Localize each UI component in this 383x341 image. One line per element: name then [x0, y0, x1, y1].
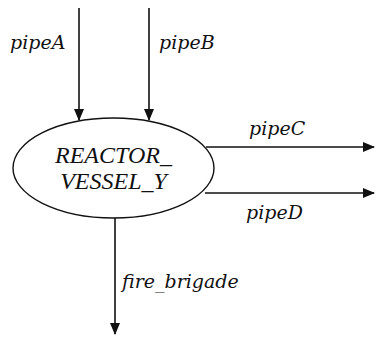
- reactor-vessel-label: REACTOR_ VESSEL_Y: [13, 118, 214, 218]
- diagram-canvas: REACTOR_ VESSEL_Y pipeA pipeB pipeC pipe…: [0, 0, 383, 341]
- pipeD-label: pipeD: [246, 203, 303, 222]
- pipeB-label: pipeB: [159, 33, 215, 52]
- node-label-line1: REACTOR_: [55, 142, 172, 168]
- pipeC-label: pipeC: [249, 119, 305, 138]
- node-label-line2: VESSEL_Y: [60, 168, 167, 194]
- pipeA-label: pipeA: [10, 33, 65, 52]
- fire-brigade-label: fire_brigade: [122, 272, 239, 291]
